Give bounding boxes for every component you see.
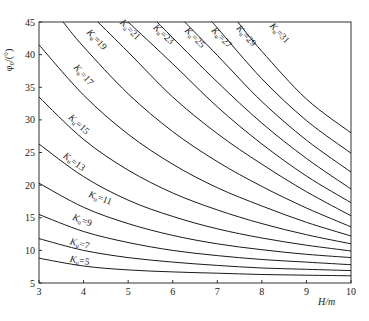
curve-ku-23 [128,22,351,203]
curve-label: Ku=29 [233,22,258,49]
x-tick-label: 8 [259,286,264,297]
curve-label: Ku=5 [68,254,91,268]
x-tick-label: 7 [215,286,220,297]
curve-ku-27 [185,22,351,172]
curve-label: Ku=25 [181,25,207,51]
curve-label: Ku=9 [70,212,93,230]
x-axis-title: H/m [317,296,335,307]
x-tick-label: 10 [346,286,356,297]
curve-ku-25 [157,22,351,189]
y-tick-label: 5 [30,278,35,289]
y-tick-label: 45 [25,17,35,28]
y-tick-label: 20 [25,180,35,191]
curve-label: Ku=31 [266,20,292,46]
x-tick-label: 6 [170,286,175,297]
y-tick-label: 40 [25,49,35,60]
y-tick-label: 30 [25,114,35,125]
curve-label: Ku=23 [150,22,176,48]
curve-labels-group: Ku=5Ku=7Ku=9Ku=11Ku=13Ku=15Ku=17Ku=19Ku=… [60,17,292,268]
curve-label: Ku=19 [83,26,109,52]
curve-label: Ku=15 [65,111,91,137]
curve-ku-21 [98,22,351,216]
curve-label: Ku=27 [208,25,234,51]
curves-group [39,22,351,276]
x-tick-label: 4 [81,286,86,297]
x-tick-label: 5 [126,286,131,297]
curve-ku-13 [39,144,351,251]
curve-label: Ku=17 [70,62,95,89]
y-tick-label: 25 [25,147,35,158]
x-tick-label: 9 [304,286,309,297]
x-tick-label: 3 [37,286,42,297]
chart: Ku=5Ku=7Ku=9Ku=11Ku=13Ku=15Ku=17Ku=19Ku=… [0,0,369,321]
curve-label: Ku=21 [117,17,143,43]
y-axis-title: φ₀/(°) [3,49,15,72]
y-tick-label: 15 [25,212,35,223]
y-tick-label: 35 [25,82,35,93]
y-tick-label: 10 [25,245,35,256]
